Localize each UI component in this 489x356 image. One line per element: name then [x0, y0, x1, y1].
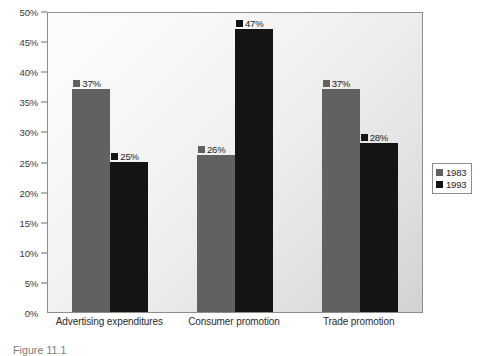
- legend-swatch-icon: [436, 169, 443, 176]
- bar-1993-1: [110, 162, 148, 313]
- y-axis-tick-label: 20%: [20, 187, 38, 198]
- figure-caption: Figure 11.1: [13, 344, 66, 356]
- legend-swatch-icon: [323, 80, 330, 87]
- y-axis: 0%5%10%15%20%25%30%35%40%45%50%: [0, 12, 47, 314]
- bar-value-text: 37%: [332, 78, 350, 89]
- bar-value-label: 37%: [73, 78, 100, 91]
- legend-swatch-icon: [361, 134, 368, 141]
- x-axis-category-label: Advertising expenditures: [56, 316, 163, 327]
- legend-swatch-icon: [436, 181, 443, 188]
- y-axis-tick-label: 0%: [25, 308, 38, 319]
- legend-swatch-icon: [111, 153, 118, 160]
- legend-swatch-icon: [198, 146, 205, 153]
- bar-1993-2: [235, 29, 273, 312]
- y-axis-tick-label: 50%: [20, 7, 38, 18]
- bar-value-text: 26%: [207, 144, 225, 155]
- y-axis-tick-label: 15%: [20, 217, 38, 228]
- y-axis-tick-label: 10%: [20, 247, 38, 258]
- legend-swatch-icon: [236, 20, 243, 27]
- x-axis-category-label: Trade promotion: [323, 316, 395, 327]
- y-axis-tick-label: 40%: [20, 67, 38, 78]
- y-axis-tick-label: 35%: [20, 97, 38, 108]
- bar-1993-3: [360, 143, 398, 312]
- legend-swatch-icon: [73, 80, 80, 87]
- chart-legend: 19831993: [432, 163, 472, 194]
- y-axis-tick-label: 30%: [20, 127, 38, 138]
- bar-1983-1: [72, 89, 110, 312]
- y-axis-tick-label: 5%: [25, 277, 38, 288]
- legend-entry-label: 1993: [446, 179, 466, 190]
- legend-entry-1993: 1993: [436, 179, 466, 190]
- bar-value-text: 37%: [82, 78, 100, 89]
- bar-value-label: 25%: [111, 151, 138, 164]
- bar-value-text: 25%: [120, 151, 138, 162]
- bar-value-label: 28%: [361, 132, 388, 145]
- bar-value-text: 47%: [245, 18, 263, 29]
- legend-entry-label: 1983: [446, 167, 466, 178]
- legend-entry-1983: 1983: [436, 167, 466, 178]
- bar-value-text: 28%: [370, 132, 388, 143]
- y-axis-tick-label: 45%: [20, 37, 38, 48]
- plot-area: 37%25%26%47%37%28%: [47, 12, 423, 313]
- bar-value-label: 37%: [323, 78, 350, 91]
- bars-container: 37%25%26%47%37%28%: [48, 13, 422, 312]
- x-axis-category-label: Consumer promotion: [188, 316, 280, 327]
- bar-1983-3: [322, 89, 360, 312]
- x-axis-labels: Advertising expendituresConsumer promoti…: [47, 316, 423, 334]
- bar-value-label: 47%: [236, 18, 263, 31]
- bar-value-label: 26%: [198, 144, 225, 157]
- y-axis-tick-label: 25%: [20, 157, 38, 168]
- bar-1983-2: [197, 155, 235, 312]
